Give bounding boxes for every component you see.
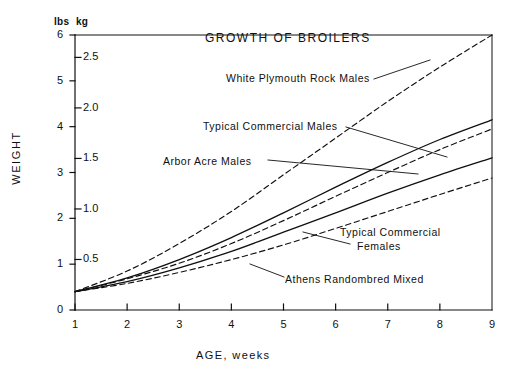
leader-line-arbor-acre-males — [268, 160, 418, 174]
leader-line-athens-randombred-mixed — [250, 264, 284, 277]
series-line-arbor-acre-males — [75, 129, 492, 292]
plot-surface — [0, 0, 519, 376]
leader-lines-group — [250, 60, 447, 277]
series-line-white-plymouth-rock-males — [75, 35, 492, 292]
series-line-typical-commercial-females — [75, 158, 492, 292]
leader-line-typical-commercial-males — [346, 127, 447, 157]
leader-line-white-plymouth-rock-males — [374, 60, 430, 79]
axes-group — [70, 35, 492, 310]
curves-group — [75, 35, 492, 292]
growth-of-broilers-chart: WEIGHT lbs kg GROWTH OF BROILERS AGE, we… — [0, 0, 519, 376]
leader-line-typical-commercial-females — [303, 232, 350, 244]
